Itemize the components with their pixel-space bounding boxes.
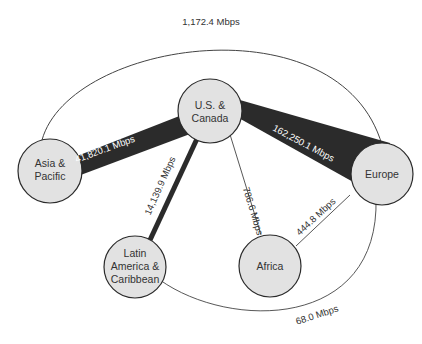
node-label: Europe: [365, 168, 399, 180]
edge-label-us-africa: 786.6 Mbps: [241, 186, 266, 237]
node-label: Asia &: [35, 157, 65, 169]
node-africa: Africa: [239, 235, 301, 297]
node-asia-pacific: Asia & Pacific: [18, 139, 82, 203]
node-label: Canada: [192, 112, 229, 124]
node-label: Pacific: [35, 170, 66, 182]
bandwidth-diagram: U.S. & Canada Asia & Pacific Europe Lati…: [0, 0, 422, 344]
edge-label-asia-europe: 1,172.4 Mbps: [182, 16, 240, 27]
node-label: Latin: [124, 247, 147, 259]
node-label: U.S. &: [195, 99, 225, 111]
edge-label-europe-africa: 444.8 Mbps: [294, 195, 338, 237]
node-label: America &: [111, 260, 159, 272]
edge-label-us-latin: 14,139.9 Mbps: [142, 154, 178, 216]
node-us-canada: U.S. & Canada: [178, 79, 242, 143]
node-europe: Europe: [351, 143, 413, 205]
node-latin-america: Latin America & Caribbean: [104, 236, 166, 298]
node-label: Caribbean: [111, 273, 160, 285]
node-label: Africa: [257, 260, 284, 272]
